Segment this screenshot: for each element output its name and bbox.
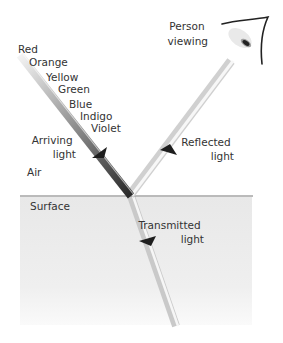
air-label: Air [27, 166, 42, 178]
person-viewing-label: Person viewing [168, 20, 208, 47]
spectrum-label-blue: Blue [69, 98, 92, 110]
spectrum-label-violet: Violet [91, 122, 121, 134]
spectrum-label-indigo: Indigo [80, 110, 112, 122]
surface-label: Surface [30, 200, 70, 212]
spectrum-label-yellow: Yellow [45, 71, 79, 83]
reflected-beam [130, 61, 233, 195]
eye-icon [222, 17, 268, 64]
arriving-light-label: Arriving light [32, 134, 76, 160]
light-reflection-diagram: Person viewing Red Orange Yellow Green B… [0, 0, 283, 343]
reflected-light-label: Reflected light [181, 136, 234, 162]
spectrum-label-red: Red [18, 43, 38, 55]
spectrum-label-orange: Orange [29, 56, 68, 68]
spectrum-label-green: Green [58, 83, 90, 95]
